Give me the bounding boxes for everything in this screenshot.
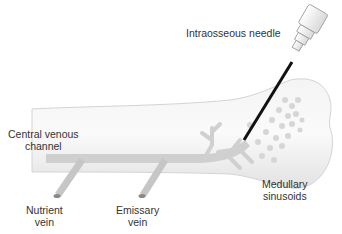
label-medullary-sinusoids: Medullary sinusoids xyxy=(262,178,308,202)
label-intraosseous-needle: Intraosseous needle xyxy=(186,27,281,39)
label-line: vein xyxy=(26,216,63,228)
label-line: vein xyxy=(116,216,159,228)
label-line: sinusoids xyxy=(262,190,308,202)
label-central-venous-channel: Central venous channel xyxy=(8,128,79,152)
label-line: Medullary xyxy=(262,178,308,190)
label-nutrient-vein: Nutrient vein xyxy=(26,204,63,228)
label-line: channel xyxy=(8,140,79,152)
label-emissary-vein: Emissary vein xyxy=(116,204,159,228)
label-line: Central venous xyxy=(8,128,79,140)
label-line: Nutrient xyxy=(26,204,63,216)
needle-hub-icon xyxy=(286,4,328,55)
label-line: Emissary xyxy=(116,204,159,216)
